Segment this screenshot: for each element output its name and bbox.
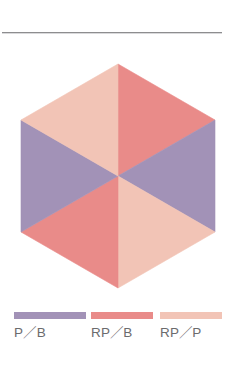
- legend-swatch-rp-b: [91, 312, 153, 319]
- hexagon-pie-chart: [0, 0, 234, 300]
- legend-swatch-rp-p: [160, 312, 222, 319]
- legend-item-rp-b[interactable]: RP／B: [91, 312, 153, 341]
- legend-label-rp-p: RP／P: [160, 325, 222, 341]
- legend-swatch-p-b: [14, 312, 86, 319]
- legend-item-p-b[interactable]: P／B: [14, 312, 86, 341]
- legend-label-rp-b: RP／B: [91, 325, 153, 341]
- legend-label-p-b: P／B: [14, 325, 86, 341]
- hexagon-chart-svg: [0, 0, 234, 300]
- legend: P／B RP／B RP／P: [0, 312, 234, 356]
- figure-root: P／B RP／B RP／P: [0, 0, 234, 371]
- hexagon-sectors: [21, 64, 215, 288]
- legend-item-rp-p[interactable]: RP／P: [160, 312, 222, 341]
